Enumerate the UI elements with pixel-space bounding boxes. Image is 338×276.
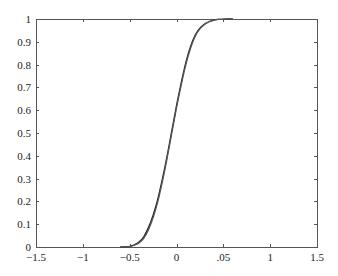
x-tick-label: 1 <box>267 251 273 263</box>
y-tick-label: 0.3 <box>17 173 31 185</box>
x-tick-label: 0 <box>174 251 180 263</box>
y-tick-label: 0.1 <box>17 218 31 230</box>
y-tick-label: 0.8 <box>17 59 31 71</box>
x-tick-label: −1 <box>77 251 89 263</box>
y-axis-tick-labels: 00.10.20.30.40.50.60.70.80.91 <box>17 13 31 253</box>
cdf-chart: 00.10.20.30.40.50.60.70.80.91 −1.5−1−0.5… <box>0 0 338 276</box>
x-tick-label: 1.5 <box>310 251 324 263</box>
y-tick-label: 0.7 <box>17 81 31 93</box>
x-axis-tick-labels: −1.5−1−0.50.0511.5 <box>26 251 324 263</box>
x-tick-label: −1.5 <box>26 251 46 263</box>
y-tick-label: 1 <box>26 13 32 25</box>
plot-frame <box>37 20 318 248</box>
y-tick-label: 0.4 <box>17 150 31 162</box>
axis-ticks <box>36 19 317 247</box>
y-tick-label: 0.6 <box>17 104 31 116</box>
y-tick-label: 0.5 <box>17 127 31 139</box>
y-tick-label: 0.9 <box>17 36 31 48</box>
series-line-curve-1 <box>120 19 232 247</box>
y-tick-label: 0.2 <box>17 195 31 207</box>
x-tick-label: −0.5 <box>120 251 140 263</box>
series-line-curve-2 <box>120 19 232 247</box>
data-series <box>120 19 232 247</box>
x-tick-label: .05 <box>216 251 230 263</box>
